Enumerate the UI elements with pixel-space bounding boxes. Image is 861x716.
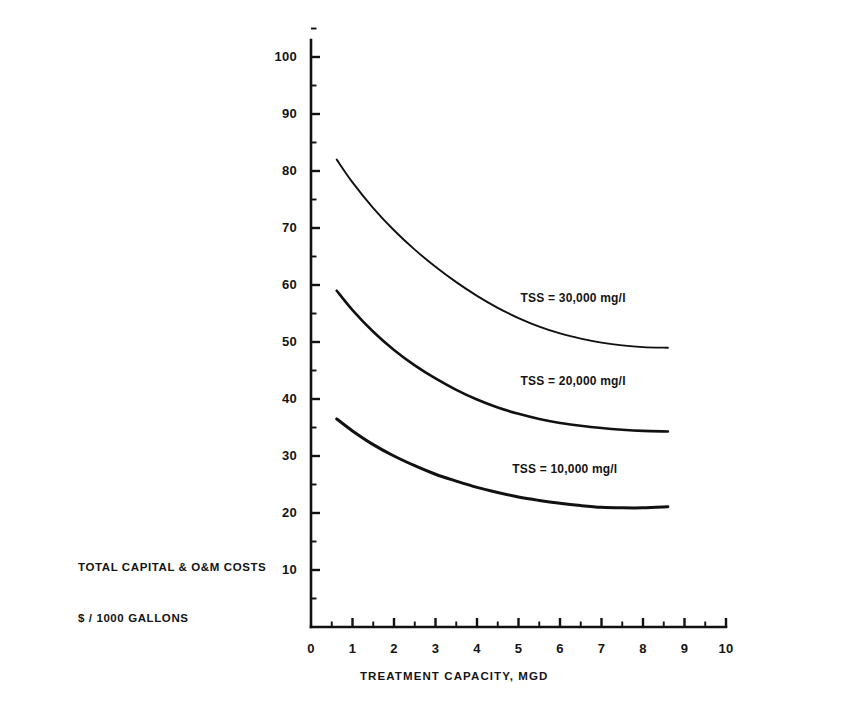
x-tick-label: 4	[462, 641, 492, 656]
x-axis-title: TREATMENT CAPACITY, MGD	[360, 668, 548, 685]
series-annotation-label: TSS = 20,000 mg/l	[521, 374, 626, 388]
y-tick-label: 30	[257, 448, 297, 463]
y-tick-label: 60	[257, 277, 297, 292]
y-tick-label: 10	[257, 562, 297, 577]
x-tick-label: 7	[587, 641, 617, 656]
y-tick-label: 90	[257, 106, 297, 121]
series-annotation-label: TSS = 10,000 mg/l	[512, 462, 617, 476]
series-group	[337, 160, 668, 508]
y-tick-label: 100	[257, 49, 297, 64]
series-curve-3	[337, 419, 668, 508]
x-tick-label: 1	[338, 641, 368, 656]
x-tick-label: 10	[711, 641, 741, 656]
x-tick-label: 3	[421, 641, 451, 656]
series-curve-2	[337, 291, 668, 432]
y-tick-label: 40	[257, 391, 297, 406]
y-axis-title-line-2: $ / 1000 GALLONS	[78, 610, 266, 627]
series-annotation-label: TSS = 30,000 mg/l	[521, 291, 626, 305]
figure-container: TOTAL CAPITAL & O&M COSTS $ / 1000 GALLO…	[0, 0, 861, 716]
y-axis-title-line-1: TOTAL CAPITAL & O&M COSTS	[78, 559, 266, 576]
x-tick-label: 5	[504, 641, 534, 656]
y-tick-label: 20	[257, 505, 297, 520]
x-tick-label: 0	[296, 641, 326, 656]
x-tick-label: 2	[379, 641, 409, 656]
series-curve-1	[337, 160, 668, 348]
y-tick-label: 80	[257, 163, 297, 178]
x-tick-label: 9	[670, 641, 700, 656]
x-tick-label: 6	[545, 641, 575, 656]
axes-group	[311, 29, 726, 628]
x-tick-label: 8	[628, 641, 658, 656]
y-tick-label: 50	[257, 334, 297, 349]
y-axis-title: TOTAL CAPITAL & O&M COSTS $ / 1000 GALLO…	[78, 525, 266, 661]
y-tick-label: 70	[257, 220, 297, 235]
